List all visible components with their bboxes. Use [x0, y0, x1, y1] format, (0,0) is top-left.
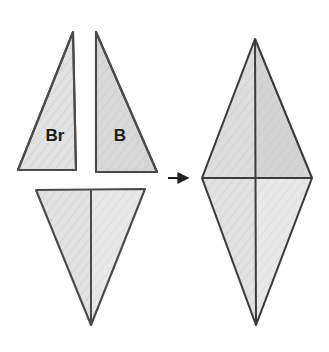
triangle-b-label: B — [114, 126, 126, 145]
assembled-rhombus — [202, 39, 312, 325]
source-pieces-group: Br B — [18, 32, 157, 325]
triangle-b: B — [96, 32, 157, 172]
assembled-rhombus-vertical-median — [255, 39, 256, 325]
triangle-br-label: Br — [46, 126, 65, 145]
triangle-br: Br — [18, 32, 76, 170]
figure-root: Br B — [0, 0, 329, 352]
figure-canvas: Br B — [0, 0, 329, 352]
